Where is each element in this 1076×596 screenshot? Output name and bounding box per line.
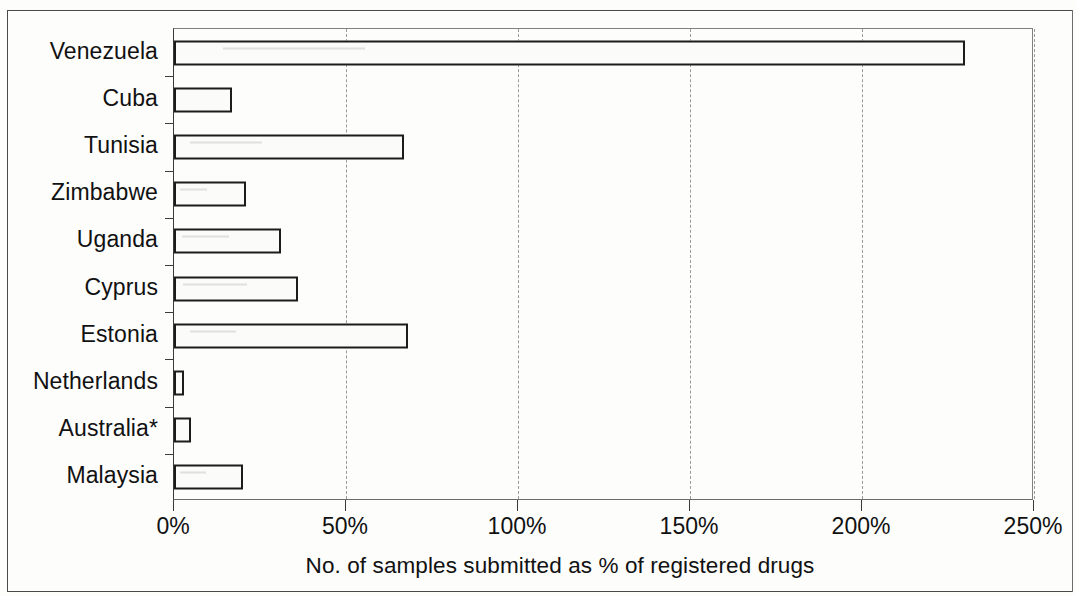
bar-row — [174, 123, 1034, 170]
scan-artifact — [190, 330, 236, 332]
x-axis-title: No. of samples submitted as % of registe… — [0, 553, 1076, 579]
y-axis-tick — [165, 312, 174, 313]
bar-malaysia — [174, 465, 243, 490]
y-axis-tick — [165, 123, 174, 124]
x-axis-tick-0 — [173, 500, 174, 511]
bar-row — [174, 171, 1034, 218]
bar-row — [174, 454, 1034, 501]
x-axis-tick-50 — [345, 500, 346, 511]
x-axis-title-text: No. of samples submitted as % of registe… — [306, 553, 815, 579]
x-axis-tick-label-0: 0% — [156, 513, 189, 539]
scan-artifact — [180, 472, 207, 474]
x-axis-tick-200 — [861, 500, 862, 511]
bar-row — [174, 265, 1034, 312]
y-axis-tick — [165, 454, 174, 455]
scan-artifact — [182, 236, 229, 238]
y-axis-tick — [165, 359, 174, 360]
x-axis-tick-100 — [517, 500, 518, 511]
y-axis-labels: VenezuelaCubaTunisiaZimbabweUgandaCyprus… — [8, 28, 158, 500]
bar-row — [174, 29, 1034, 76]
y-axis-tick — [165, 218, 174, 219]
y-axis-label-australia: Australia* — [8, 417, 158, 440]
y-axis-label-malaysia: Malaysia — [8, 464, 158, 487]
y-axis-label-cuba: Cuba — [8, 87, 158, 110]
plot-area — [173, 28, 1033, 500]
bar-zimbabwe — [174, 182, 246, 207]
y-axis-tick — [165, 265, 174, 266]
x-axis-tick-250 — [1033, 500, 1034, 511]
y-axis-label-uganda: Uganda — [8, 228, 158, 251]
y-axis-tick — [165, 407, 174, 408]
bar-tunisia — [174, 134, 404, 159]
x-axis-tick-label-150: 150% — [660, 513, 719, 539]
gridline-250 — [1034, 29, 1035, 499]
bar-estonia — [174, 323, 408, 348]
bar-cuba — [174, 87, 232, 112]
bar-uganda — [174, 229, 281, 254]
bar-venezuela — [174, 40, 965, 65]
y-axis-label-cyprus: Cyprus — [8, 276, 158, 299]
y-axis-label-tunisia: Tunisia — [8, 134, 158, 157]
bar-australia — [174, 418, 191, 443]
y-axis-tick — [165, 76, 174, 77]
y-axis-label-netherlands: Netherlands — [8, 370, 158, 393]
bar-row — [174, 312, 1034, 359]
x-axis-tick-150 — [689, 500, 690, 511]
scanned-page: VenezuelaCubaTunisiaZimbabweUgandaCyprus… — [0, 0, 1076, 596]
bar-row — [174, 407, 1034, 454]
bar-row — [174, 359, 1034, 406]
x-axis-tick-label-100: 100% — [488, 513, 547, 539]
bar-netherlands — [174, 370, 184, 395]
bar-chart: VenezuelaCubaTunisiaZimbabweUgandaCyprus… — [0, 0, 1076, 596]
scan-artifact — [180, 189, 207, 191]
bar-row — [174, 218, 1034, 265]
x-axis-tick-label-250: 250% — [1004, 513, 1063, 539]
bar-cyprus — [174, 276, 298, 301]
scan-artifact — [190, 141, 262, 143]
scan-artifact — [223, 47, 365, 49]
y-axis-label-estonia: Estonia — [8, 323, 158, 346]
y-axis-label-venezuela: Venezuela — [8, 40, 158, 63]
y-axis-tick — [165, 171, 174, 172]
x-axis-tick-label-200: 200% — [832, 513, 891, 539]
scan-artifact — [183, 283, 247, 285]
bar-row — [174, 76, 1034, 123]
x-axis-tick-label-50: 50% — [322, 513, 368, 539]
y-axis-label-zimbabwe: Zimbabwe — [8, 181, 158, 204]
